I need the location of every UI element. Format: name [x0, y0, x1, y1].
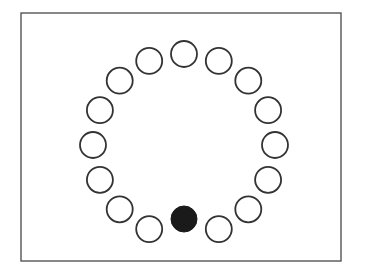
ring-node-empty	[235, 196, 261, 222]
ring-node-empty	[80, 132, 106, 158]
ring-node-empty	[107, 196, 133, 222]
ring-node-filled	[171, 206, 197, 232]
ring-diagram-svg	[0, 0, 366, 274]
ring-node-empty	[171, 41, 197, 67]
ring-node-empty	[206, 216, 232, 242]
ring-node-empty	[255, 97, 281, 123]
ring-node-empty	[107, 68, 133, 94]
ring-node-empty	[255, 167, 281, 193]
ring-node-empty	[87, 97, 113, 123]
ring-node-empty	[136, 216, 162, 242]
ring-node-empty	[136, 48, 162, 74]
ring-node-empty	[87, 167, 113, 193]
figure-canvas	[0, 0, 366, 274]
ring-node-empty	[206, 48, 232, 74]
ring-node-empty	[262, 132, 288, 158]
ring-node-empty	[235, 68, 261, 94]
